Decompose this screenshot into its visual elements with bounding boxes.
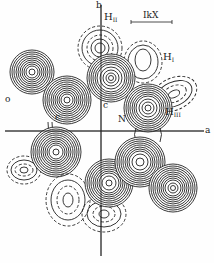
atom-lower-1 bbox=[31, 127, 81, 177]
axis-label-a: a bbox=[205, 126, 210, 135]
axis-label-b: b bbox=[96, 1, 102, 10]
atom-carbon-left bbox=[43, 76, 91, 124]
label-h1: HI bbox=[163, 52, 174, 63]
contour-map bbox=[0, 0, 214, 263]
atom-lower-4 bbox=[149, 164, 197, 212]
label-carbon-center: c bbox=[103, 101, 108, 110]
label-oxygen: o bbox=[5, 95, 10, 104]
label-h2: HII bbox=[104, 12, 117, 23]
scale-bar-label: IkX bbox=[143, 11, 158, 20]
label-h3: HIII bbox=[165, 107, 181, 118]
label-nitrogen: N bbox=[118, 115, 126, 124]
label-carbon-left: c bbox=[55, 113, 60, 122]
contour-map-figure: b a IkX HII HI HIII o c c N bbox=[0, 0, 214, 263]
atom-lower-h2 bbox=[46, 174, 90, 226]
